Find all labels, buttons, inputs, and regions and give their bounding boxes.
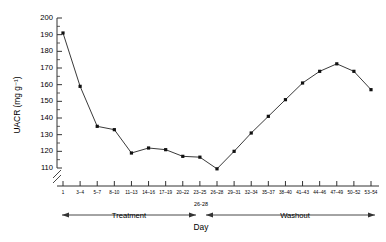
x-axis-title: Day (194, 222, 210, 232)
x-tick-label: 47–49 (330, 190, 343, 195)
y-axis-title: UACR (mg g⁻¹) (12, 76, 22, 133)
phase-annotations: Treatment Washout 26-28 Day (62, 201, 375, 232)
x-tick-label: 38–40 (279, 190, 292, 195)
x-tick-label: 1 (62, 190, 65, 195)
x-tick-label: 35–37 (262, 190, 275, 195)
data-point-10 (233, 150, 236, 153)
data-series-group (61, 31, 372, 170)
data-point-5 (147, 146, 150, 149)
data-point-12 (267, 115, 270, 118)
data-point-8 (198, 156, 201, 159)
treatment-label: Treatment (112, 211, 147, 220)
x-tick-label: 17–19 (159, 190, 172, 195)
data-point-6 (164, 148, 167, 151)
y-tick-label: 120 (40, 146, 53, 155)
data-point-9 (215, 167, 218, 170)
data-point-17 (352, 70, 355, 73)
data-point-16 (335, 62, 338, 65)
x-tick-label: 20–22 (176, 190, 189, 195)
data-point-0 (61, 31, 64, 34)
y-tick-label: 180 (40, 46, 53, 55)
x-tick-label: 14–16 (142, 190, 155, 195)
y-axis-ticks (57, 18, 62, 168)
axis-break-marker (53, 170, 61, 183)
data-point-14 (301, 81, 304, 84)
x-tick-label: 50–52 (347, 190, 360, 195)
data-point-2 (96, 125, 99, 128)
data-point-11 (250, 131, 253, 134)
data-point-1 (79, 85, 82, 88)
x-tick-label: 5–7 (93, 190, 101, 195)
x-tick-label: 29–31 (228, 190, 241, 195)
y-tick-label: 130 (40, 130, 53, 139)
x-tick-label: 11–13 (125, 190, 138, 195)
y-tick-label: 160 (40, 80, 53, 89)
data-point-13 (284, 98, 287, 101)
x-tick-label: 23–25 (193, 190, 206, 195)
data-point-7 (181, 155, 184, 158)
y-tick-label: 140 (40, 113, 53, 122)
midpoint-range-label: 26-28 (194, 201, 208, 207)
x-tick-label: 3–4 (76, 190, 84, 195)
y-axis-tick-labels: 110120130140150160170180190200 (40, 13, 53, 172)
x-axis-tick-labels: 13–45–78–1011–1314–1617–1920–2223–2526–2… (62, 190, 378, 195)
x-tick-label: 26–28 (211, 190, 224, 195)
y-tick-label: 150 (40, 96, 53, 105)
x-tick-label: 8–10 (109, 190, 120, 195)
series-line-uacr (63, 33, 371, 169)
y-tick-label: 190 (40, 30, 53, 39)
x-axis-ticks (63, 181, 371, 186)
y-tick-label: 200 (40, 13, 53, 22)
x-tick-label: 41–43 (296, 190, 309, 195)
data-point-4 (130, 151, 133, 154)
data-point-3 (113, 128, 116, 131)
y-tick-label: 170 (40, 63, 53, 72)
y-axis-group: 110120130140150160170180190200 UACR (mg … (12, 13, 62, 183)
data-point-18 (369, 88, 372, 91)
uacr-line-chart: 110120130140150160170180190200 UACR (mg … (0, 0, 386, 242)
series-markers (61, 31, 372, 170)
x-tick-label: 44–46 (313, 190, 326, 195)
washout-label: Washout (280, 211, 311, 220)
data-point-15 (318, 70, 321, 73)
x-tick-label: 53–54 (365, 190, 378, 195)
chart-figure: 110120130140150160170180190200 UACR (mg … (0, 0, 386, 242)
x-axis-group: 13–45–78–1011–1314–1617–1920–2223–2526–2… (57, 181, 379, 195)
x-tick-label: 32–34 (245, 190, 258, 195)
y-tick-label: 110 (41, 163, 53, 172)
